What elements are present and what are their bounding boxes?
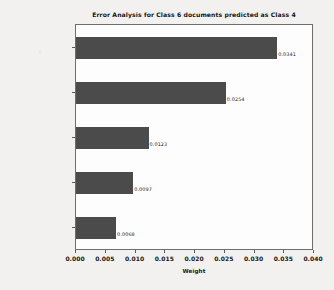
x-tick-label: 0.000 — [65, 255, 84, 262]
x-tick-label: 0.005 — [95, 255, 114, 262]
x-tick-mark — [313, 250, 314, 253]
bar — [76, 37, 277, 59]
bar-value-label: 0.0068 — [117, 231, 135, 237]
bar-row: 0.0097 — [76, 161, 312, 206]
bar-row: 0.0123 — [76, 115, 312, 160]
x-tick-label: 0.040 — [303, 255, 322, 262]
bar-value-label: 0.0254 — [227, 96, 245, 102]
plot-area: 0.03410.02540.01230.00970.0068 — [75, 24, 313, 250]
x-tick-label: 0.025 — [214, 255, 233, 262]
bar-row: 0.0254 — [76, 70, 312, 115]
bar-value-label: 0.0097 — [134, 186, 152, 192]
x-tick-label: 0.030 — [244, 255, 263, 262]
bar — [76, 172, 133, 194]
x-tick-label: 0.020 — [184, 255, 203, 262]
bar — [76, 82, 226, 104]
bar-value-label: 0.0341 — [278, 51, 296, 57]
chart-figure: Error Analysis for Class 6 documents pre… — [0, 0, 334, 290]
chart-title: Error Analysis for Class 6 documents pre… — [75, 11, 313, 18]
bar-row: 0.0068 — [76, 206, 312, 251]
x-tick-label: 0.015 — [155, 255, 174, 262]
bar — [76, 217, 116, 239]
x-tick-label: 0.035 — [274, 255, 293, 262]
bar-row: 0.0341 — [76, 25, 312, 70]
x-tick-label: 0.010 — [125, 255, 144, 262]
bar-value-label: 0.0123 — [150, 141, 168, 147]
x-axis-label: Weight — [75, 268, 313, 274]
bar — [76, 127, 149, 149]
